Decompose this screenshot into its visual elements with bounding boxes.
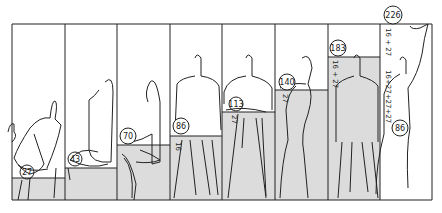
marker-43: 43 — [68, 152, 82, 166]
marker-226: 226 — [384, 6, 402, 24]
side-label-16-27-top: 16 + 27 — [384, 28, 392, 56]
side-label-16: 16 — [174, 142, 182, 151]
svg-text:140: 140 — [279, 78, 294, 87]
side-label-27-a: 27 — [230, 115, 238, 124]
svg-text:86: 86 — [176, 122, 186, 131]
figure-arm-raised — [376, 24, 428, 194]
marker-70: 70 — [120, 128, 136, 144]
marker-86-hand: 86 — [392, 120, 408, 136]
diagram-svg: 27 43 70 86 113 140 183 226 — [0, 0, 442, 213]
figure-reclining — [68, 80, 113, 180]
marker-183: 183 — [330, 40, 346, 56]
marker-140: 140 — [279, 74, 295, 90]
modulor-diagram: 27 43 70 86 113 140 183 226 — [0, 0, 442, 213]
svg-text:27: 27 — [22, 168, 32, 177]
svg-text:226: 226 — [385, 11, 400, 20]
svg-text:43: 43 — [70, 155, 80, 164]
shaded-surfaces — [12, 57, 380, 200]
marker-86: 86 — [173, 118, 189, 134]
side-label-16-27: 16 + 27 — [331, 60, 339, 88]
side-label-16-27-27-27: 16+27+27+27 — [384, 70, 392, 123]
marker-113: 113 — [228, 97, 243, 111]
svg-text:86: 86 — [395, 124, 405, 133]
marker-27: 27 — [20, 165, 34, 179]
svg-text:113: 113 — [228, 100, 243, 109]
svg-text:183: 183 — [330, 44, 345, 53]
side-label-27-b: 27 — [281, 94, 289, 103]
svg-text:70: 70 — [123, 132, 133, 141]
